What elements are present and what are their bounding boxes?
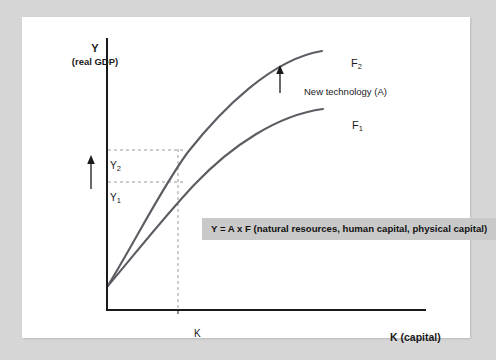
figure-card: Y (real GDP) K (capital) F2 F1 New techn… — [22, 17, 470, 338]
curve-f1 — [107, 109, 323, 287]
y-tick-label-y2: Y2 — [110, 160, 121, 174]
curve-label-f1: F1 — [352, 119, 363, 134]
curve-label-f1-main: F — [352, 119, 359, 131]
x-tick-label-k: K — [194, 328, 201, 340]
curve-label-f2: F2 — [351, 57, 362, 72]
curve-label-f2-main: F — [351, 57, 358, 69]
x-axis-title: K (capital) — [390, 331, 441, 343]
production-function-equation-box: Y = A x F (natural resources, human capi… — [202, 218, 496, 240]
new-technology-annotation: New technology (A) — [304, 87, 387, 98]
y-axis-title-sub: (real GDP) — [72, 56, 118, 67]
y-tick-label-y1-sub: 1 — [117, 196, 121, 205]
y-increase-arrow-head — [87, 155, 95, 164]
y-tick-label-y2-sub: 2 — [117, 164, 121, 173]
curve-label-f1-sub: 1 — [359, 124, 363, 133]
curve-label-f2-sub: 2 — [358, 62, 362, 71]
y-tick-label-y2-main: Y — [110, 160, 117, 171]
y-tick-label-y1: Y1 — [110, 192, 121, 206]
y-axis-title-main: Y — [91, 42, 98, 54]
y-axis-title: Y (real GDP) — [62, 42, 128, 68]
curve-f2 — [107, 51, 322, 287]
y-tick-label-y1-main: Y — [110, 192, 117, 203]
